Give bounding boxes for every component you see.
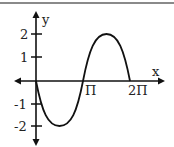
sine-curve [36,34,130,126]
x-tick-label-pi: Π [85,83,96,98]
y-axis-down-arrow-icon [33,139,40,146]
x-axis-label: x [152,64,160,79]
y-tick-label-2: 2 [20,27,28,42]
sine-graph: y x 2 1 -1 -2 Π 2Π [0,0,174,147]
x-axis-left-arrow-icon [14,78,21,85]
y-tick-label-neg1: -1 [14,97,27,112]
y-axis-label: y [41,12,50,27]
y-tick-label-1: 1 [20,50,28,65]
y-axis-up-arrow-icon [33,11,40,18]
y-tick-label-neg2: -2 [14,119,27,134]
x-tick-label-2pi: 2Π [128,83,148,98]
